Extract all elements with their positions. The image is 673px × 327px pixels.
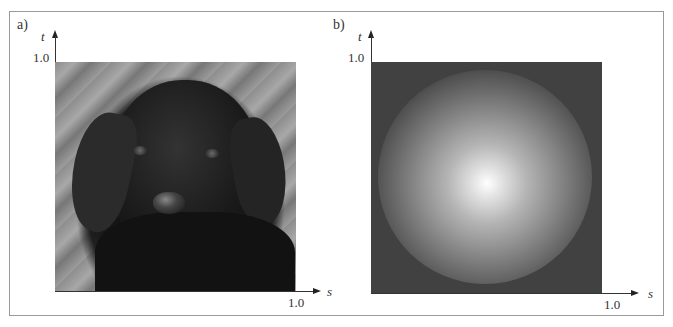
panel-a-s-axis-label: s (327, 284, 332, 300)
puppy-eye-left (133, 146, 147, 155)
puppy-nose (153, 192, 185, 214)
puppy-body (95, 212, 295, 291)
panel-b-t-axis-label: t (358, 29, 362, 45)
panel-b-label: b) (333, 17, 345, 33)
panel-b-s-axis (371, 293, 631, 294)
panel-b-s-axis-label: s (648, 286, 653, 302)
panel-a-s-axis (55, 291, 313, 292)
panel-b-s-tick: 1.0 (604, 297, 620, 313)
panel-a-s-arrow-icon (313, 288, 321, 294)
panel-a-label: a) (17, 17, 28, 33)
puppy-photo (55, 62, 296, 291)
panel-b-s-arrow-icon (631, 290, 639, 296)
panel-a-t-axis-label: t (41, 29, 45, 45)
puppy-eye-right (205, 149, 219, 158)
panel-b-t-tick: 1.0 (348, 50, 364, 66)
panel-a-s-tick: 1.0 (288, 295, 304, 311)
shaded-sphere (378, 70, 592, 284)
panel-a-t-tick: 1.0 (33, 50, 49, 66)
sphere-render (371, 62, 602, 293)
